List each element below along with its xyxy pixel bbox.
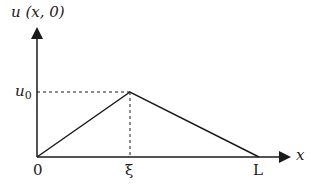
y-axis-label: u (x, 0) bbox=[11, 5, 65, 20]
peak-value-label: u0 bbox=[15, 84, 32, 101]
length-label: L bbox=[253, 163, 263, 178]
x-axis-label: x bbox=[296, 148, 304, 163]
diagram-svg bbox=[0, 0, 314, 184]
diagram-canvas: u (x, 0) x u0 0 ξ L bbox=[0, 0, 314, 184]
origin-label: 0 bbox=[33, 163, 43, 178]
triangle-profile bbox=[37, 92, 259, 157]
xi-label: ξ bbox=[125, 163, 133, 178]
